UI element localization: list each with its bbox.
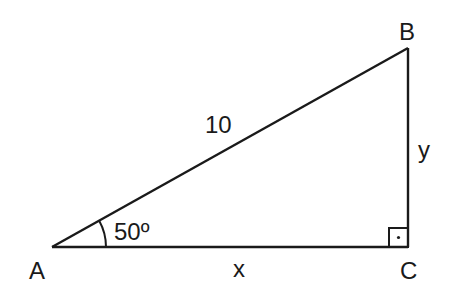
side-label-hypotenuse: 10: [205, 111, 232, 138]
vertex-label-b: B: [399, 18, 415, 45]
vertex-label-a: A: [29, 257, 45, 284]
vertex-label-c: C: [400, 257, 417, 284]
angle-arc-a: [99, 221, 106, 247]
right-angle-dot: [397, 236, 400, 239]
right-triangle-diagram: A B C 10 x y 50º: [0, 0, 454, 303]
side-ab-hypotenuse: [52, 48, 408, 247]
angle-label-a: 50º: [114, 218, 150, 245]
side-label-y: y: [418, 136, 430, 163]
side-label-x: x: [233, 255, 245, 282]
